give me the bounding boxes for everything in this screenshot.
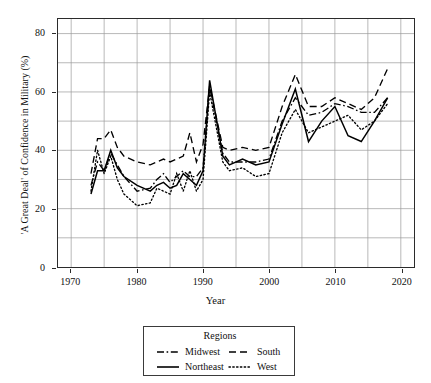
legend-title: Regions xyxy=(144,330,296,341)
chart-figure: 'A Great Deal' of Confidence in Military… xyxy=(0,0,431,383)
x-tick-mark xyxy=(203,269,204,273)
x-tick-label: 1970 xyxy=(45,277,95,287)
y-tick-mark xyxy=(52,33,56,34)
y-tick-mark xyxy=(52,92,56,93)
legend-label: South xyxy=(257,347,280,357)
legend-label: West xyxy=(257,362,277,372)
y-tick-label: 80 xyxy=(11,28,45,38)
series-line-south xyxy=(91,69,388,174)
legend-label: Midwest xyxy=(185,347,220,357)
data-series-lines xyxy=(58,19,414,267)
y-tick-label: 20 xyxy=(11,204,45,214)
legend-swatch-solid xyxy=(156,362,180,372)
y-tick-mark xyxy=(52,150,56,151)
series-line-northeast xyxy=(91,80,388,194)
x-tick-mark xyxy=(70,269,71,273)
y-tick-mark xyxy=(52,268,56,269)
legend-swatch-dashed xyxy=(228,347,252,357)
x-tick-mark xyxy=(402,269,403,273)
legend-item-south[interactable]: South xyxy=(228,345,280,359)
legend-item-west[interactable]: West xyxy=(228,360,277,374)
x-tick-label: 2010 xyxy=(310,277,360,287)
legend-swatch-dashdot xyxy=(156,347,180,357)
y-tick-label: 0 xyxy=(11,263,45,273)
legend-label: Northeast xyxy=(185,362,224,372)
plot-area xyxy=(57,18,415,268)
x-tick-label: 1980 xyxy=(112,277,162,287)
x-axis-label: Year xyxy=(0,295,431,306)
x-tick-mark xyxy=(335,269,336,273)
x-tick-mark xyxy=(269,269,270,273)
y-tick-label: 60 xyxy=(11,87,45,97)
legend-item-midwest[interactable]: Midwest xyxy=(156,345,220,359)
legend: Regions MidwestSouthNortheastWest xyxy=(143,326,295,376)
x-tick-label: 2020 xyxy=(377,277,427,287)
legend-swatch-dotted xyxy=(228,362,252,372)
x-tick-mark xyxy=(137,269,138,273)
y-tick-mark xyxy=(52,209,56,210)
x-tick-label: 1990 xyxy=(178,277,228,287)
y-tick-label: 40 xyxy=(11,145,45,155)
x-tick-label: 2000 xyxy=(244,277,294,287)
legend-item-northeast[interactable]: Northeast xyxy=(156,360,224,374)
